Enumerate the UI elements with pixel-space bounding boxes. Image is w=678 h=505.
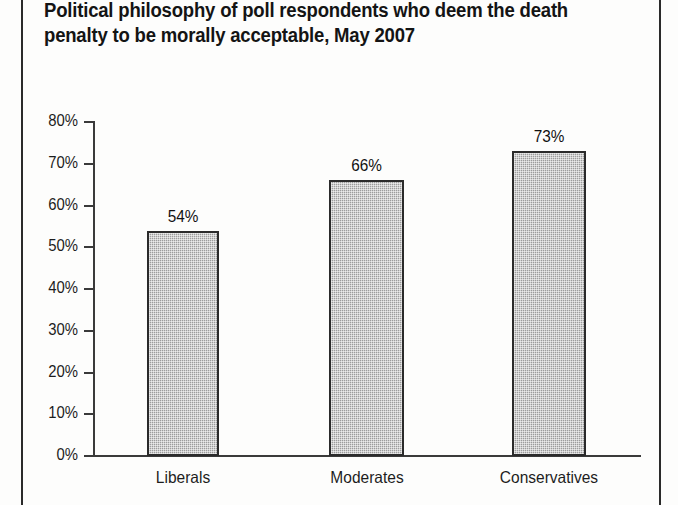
y-tick-mark [84, 205, 94, 207]
bar-liberals [147, 231, 219, 456]
y-tick-label: 70% [35, 154, 78, 172]
y-tick-mark [84, 121, 94, 123]
plot-area: 80%70%60%50%40%30%20%10%0% 54%66%73% Lib… [0, 0, 678, 505]
bar-value-label: 73% [487, 127, 612, 146]
figure-container: Political philosophy of poll respondents… [0, 0, 678, 505]
y-tick-label: 50% [35, 237, 78, 255]
x-category-label: Moderates [282, 468, 451, 487]
y-tick-label: 30% [35, 321, 78, 339]
y-tick-mark [84, 455, 94, 457]
y-tick-label: 10% [35, 404, 78, 422]
y-tick-mark [84, 372, 94, 374]
bar-value-label: 66% [304, 156, 430, 175]
bar-moderates [329, 180, 404, 456]
bar-value-label: 54% [122, 207, 245, 226]
y-tick-label: 60% [35, 196, 78, 214]
y-tick-label: 40% [35, 279, 78, 297]
y-tick-mark [84, 330, 94, 332]
y-tick-label: 80% [35, 112, 78, 130]
y-tick-mark [84, 288, 94, 290]
y-tick-label: 0% [35, 446, 78, 464]
x-category-label: Conservatives [464, 468, 633, 487]
y-tick-label: 20% [35, 363, 78, 381]
bar-conservatives [512, 151, 586, 456]
y-tick-mark [84, 413, 94, 415]
x-category-label: Liberals [98, 468, 267, 487]
y-tick-mark [84, 246, 94, 248]
y-tick-mark [84, 163, 94, 165]
